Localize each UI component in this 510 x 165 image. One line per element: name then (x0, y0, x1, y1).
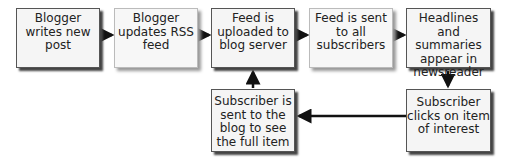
node-text: sent to the (214, 109, 291, 123)
node-feed-sent: Feed is sentto allsubscribers (309, 8, 393, 68)
node-text: Blogger (25, 12, 90, 26)
node-text: Headlines and (407, 12, 490, 39)
node-text: subscribers (315, 39, 387, 53)
node-text: blog to see (214, 122, 291, 136)
node-text: feed (118, 39, 194, 53)
node-text: Subscriber is (214, 95, 291, 109)
node-text: Feed is sent (315, 12, 387, 26)
node-text: summaries (407, 39, 490, 53)
node-text: Subscriber (407, 96, 490, 110)
node-text: updates RSS (118, 26, 194, 40)
node-text: the full item (214, 136, 291, 150)
node-text: post (25, 39, 90, 53)
node-text: to all (315, 26, 387, 40)
node-blogger-writes-post: Bloggerwrites newpost (16, 8, 100, 68)
node-text: uploaded to (217, 26, 289, 40)
node-text: Feed is (217, 12, 289, 26)
node-text: blog server (217, 39, 289, 53)
node-text: appear in (407, 53, 490, 67)
node-headlines-appear: Headlines andsummariesappear innewsreade… (406, 8, 491, 68)
node-text: writes new (25, 26, 90, 40)
node-feed-uploaded: Feed isuploaded toblog server (211, 8, 295, 68)
node-subscriber-sent-to-blog: Subscriber issent to theblog to seethe f… (211, 89, 295, 152)
node-blogger-updates-rss: Bloggerupdates RSSfeed (114, 8, 198, 68)
node-text: of interest (407, 123, 490, 137)
node-subscriber-clicks: Subscriberclicks on itemof interest (406, 89, 491, 152)
node-text: clicks on item (407, 110, 490, 124)
node-text: newsreader (407, 66, 490, 80)
node-text: Blogger (118, 12, 194, 26)
